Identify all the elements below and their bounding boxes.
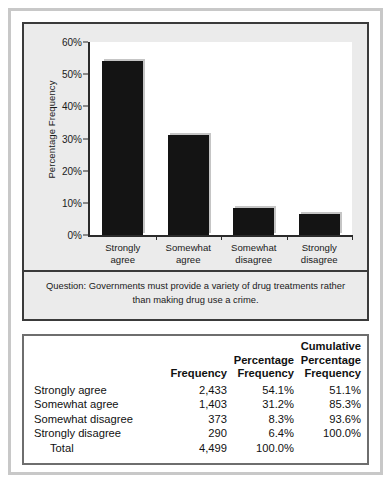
frequency-table-panel: Frequency Percentage Frequency Cumulativ… [22,334,369,465]
plot-area: Strongly agreeSomewhat agreeSomewhat dis… [88,42,352,237]
row-label: Somewhat disagree [32,412,162,427]
y-axis-tick-label: 40% [42,101,82,112]
chart-caption: Question: Governments must provide a var… [38,279,353,307]
cell-cumulative-percentage-frequency: 51.1% [296,383,363,398]
y-axis-tick-label: 30% [42,133,82,144]
x-axis-tick-label: Somewhat disagree [231,242,276,266]
chart-panel: Percentage Frequency 0%10%20%30%40%50%60… [22,22,369,321]
table-total-row: Total4,499100.0% [32,441,363,456]
row-label: Total [32,441,162,456]
table-row: Strongly disagree2906.4%100.0% [32,426,363,441]
cell-frequency: 290 [162,426,229,441]
x-axis-tick-mark [156,235,157,240]
cell-frequency: 2,433 [162,383,229,398]
y-axis-tick-label: 50% [42,69,82,80]
y-axis-tick-label: 0% [42,230,82,241]
x-axis-tick-mark [287,235,288,240]
y-axis-tick-label: 10% [42,197,82,208]
cell-cumulative-percentage-frequency: 93.6% [296,412,363,427]
plot-wrapper: Percentage Frequency 0%10%20%30%40%50%60… [24,24,367,270]
cell-percentage-frequency: 100.0% [229,441,296,456]
table-row: Somewhat disagree3738.3%93.6% [32,412,363,427]
cell-percentage-frequency: 8.3% [229,412,296,427]
row-label: Somewhat agree [32,397,162,412]
table-row: Somewhat agree1,40331.2%85.3% [32,397,363,412]
table-header-percentage-frequency: Percentage Frequency [229,340,296,383]
cell-cumulative-percentage-frequency [296,441,363,456]
x-axis-tick-label: Strongly agree [105,242,140,266]
cell-frequency: 373 [162,412,229,427]
cell-cumulative-percentage-frequency: 100.0% [296,426,363,441]
cell-frequency: 1,403 [162,397,229,412]
cell-percentage-frequency: 31.2% [229,397,296,412]
table-header-row: Frequency Percentage Frequency Cumulativ… [32,340,363,383]
x-axis-tick-label: Somewhat agree [166,242,211,266]
bar [102,61,143,235]
y-axis-tick-label: 60% [42,37,82,48]
cell-frequency: 4,499 [162,441,229,456]
row-label: Strongly disagree [32,426,162,441]
table-header: Frequency Percentage Frequency Cumulativ… [32,340,363,383]
x-axis-tick-mark [352,235,353,240]
row-label: Strongly agree [32,383,162,398]
table-header-blank [32,340,162,383]
figure-root: Percentage Frequency 0%10%20%30%40%50%60… [0,0,391,483]
y-axis-tick-labels: 0%10%20%30%40%50%60% [39,24,82,270]
caption-divider [24,270,367,272]
table-header-frequency: Frequency [162,340,229,383]
cell-percentage-frequency: 6.4% [229,426,296,441]
cell-percentage-frequency: 54.1% [229,383,296,398]
bar [168,135,209,235]
y-axis-tick-label: 20% [42,165,82,176]
bar [233,208,274,235]
table-row: Strongly agree2,43354.1%51.1% [32,383,363,398]
frequency-table: Frequency Percentage Frequency Cumulativ… [32,340,363,455]
x-axis-tick-label: Strongly disagree [301,242,338,266]
bar [299,214,340,235]
x-axis-tick-mark [221,235,222,240]
table-body: Strongly agree2,43354.1%51.1%Somewhat ag… [32,383,363,456]
cell-cumulative-percentage-frequency: 85.3% [296,397,363,412]
table-header-cumulative-percentage-frequency: Cumulative Percentage Frequency [296,340,363,383]
